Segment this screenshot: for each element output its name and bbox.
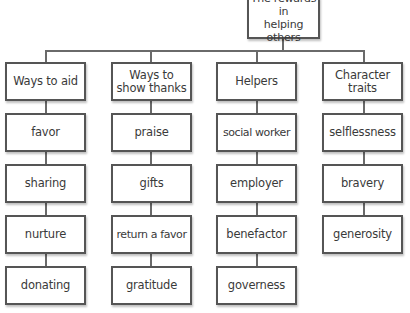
col4-connector (363, 50, 365, 62)
header-ways-to-aid: Ways to aid (5, 62, 86, 101)
root-line-2: helping others (249, 18, 318, 44)
col3-connector (256, 50, 258, 62)
header-helpers: Helpers (216, 62, 297, 101)
node-sharing: sharing (5, 164, 86, 203)
node-generosity: generosity (322, 215, 403, 254)
root-node: The rewards in helping others (247, 0, 320, 39)
node-gifts: gifts (111, 164, 192, 203)
root-line-1: The rewards in (249, 0, 318, 18)
header-character-traits: Character traits (322, 62, 403, 101)
node-donating: donating (5, 266, 86, 305)
header-ways-to-show-thanks: Ways to show thanks (111, 62, 192, 101)
node-return-a-favor: return a favor (111, 215, 192, 254)
node-gratitude: gratitude (111, 266, 192, 305)
col2-connector (150, 50, 152, 62)
node-praise: praise (111, 113, 192, 152)
node-social-worker: social worker (216, 113, 297, 152)
node-benefactor: benefactor (216, 215, 297, 254)
node-employer: employer (216, 164, 297, 203)
node-selflessness: selflessness (322, 113, 403, 152)
horizontal-connector (45, 50, 365, 52)
node-nurture: nurture (5, 215, 86, 254)
node-bravery: bravery (322, 164, 403, 203)
node-governess: governess (216, 266, 297, 305)
col1-connector (45, 50, 47, 62)
node-favor: favor (5, 113, 86, 152)
